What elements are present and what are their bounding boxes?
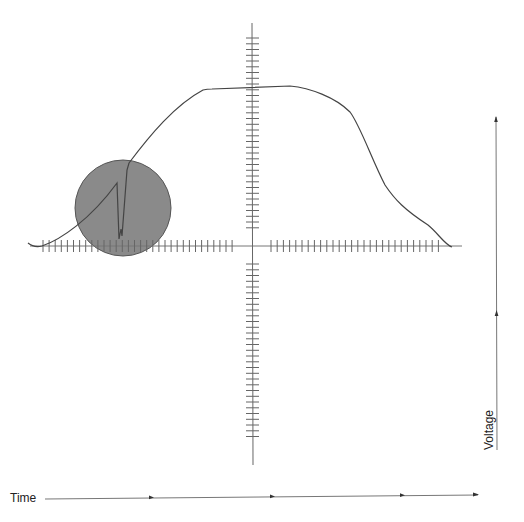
time-arrowhead-icon — [270, 495, 275, 499]
time-arrowhead-icon — [149, 496, 154, 500]
time-axis-line — [45, 495, 478, 499]
voltage-arrowhead-icon — [495, 310, 499, 316]
time-arrowhead-icon — [400, 493, 405, 497]
time-arrowhead-icon — [473, 493, 479, 497]
time-axis-label: Time — [10, 491, 36, 505]
voltage-axis-label: Voltage — [482, 410, 496, 450]
glitch-highlight-circle — [75, 160, 171, 256]
voltage-axis-line — [496, 117, 497, 450]
voltage-arrowhead-icon — [494, 116, 498, 122]
waveform-diagram — [0, 0, 524, 522]
